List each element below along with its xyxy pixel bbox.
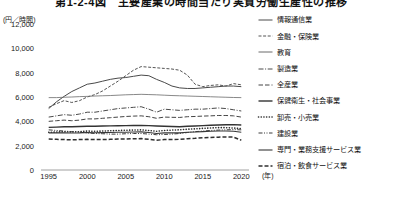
x-axis-tick-2015: 2015 — [194, 172, 211, 181]
legend-item-7[interactable]: 建設業 — [258, 125, 403, 141]
legend-item-6[interactable]: 卸売・小売業 — [258, 109, 403, 125]
series-line-9 — [49, 137, 242, 140]
legend-swatch-icon-6 — [258, 112, 273, 122]
x-axis-tick-2010: 2010 — [156, 172, 173, 181]
y-axis-tick-0: 0 — [0, 166, 34, 175]
series-line-8 — [49, 131, 242, 133]
chart-title: 第1-2-4図 主要産業の時間当たり実質労働生産性の推移 — [0, 0, 403, 9]
y-axis-tick-4000: 4,000 — [0, 117, 34, 126]
chart-container: 第1-2-4図 主要産業の時間当たり実質労働生産性の推移 (円／時間) (年) … — [0, 0, 403, 203]
legend-swatch-icon-8 — [258, 145, 273, 155]
y-axis-tick-2000: 2,000 — [0, 142, 34, 151]
legend-label-5: 保健衛生・社会事業 — [277, 97, 340, 104]
x-axis-tick-2000: 2000 — [79, 172, 96, 181]
y-axis-tick-6000: 6,000 — [0, 93, 34, 102]
series-line-4 — [49, 115, 242, 121]
x-axis-tick-2020: 2020 — [233, 172, 250, 181]
y-axis-tick-12000: 12,000 — [0, 20, 34, 29]
legend-swatch-icon-5 — [258, 96, 273, 106]
legend-swatch-icon-7 — [258, 128, 273, 138]
series-line-5 — [49, 125, 242, 128]
legend-label-2: 教育 — [277, 49, 291, 56]
legend-item-5[interactable]: 保健衛生・社会事業 — [258, 93, 403, 109]
legend-label-3: 製造業 — [277, 65, 298, 72]
series-line-0 — [49, 75, 242, 108]
legend-label-1: 金融・保険業 — [277, 33, 319, 40]
legend-label-8: 専門・業務支援サービス業 — [277, 146, 361, 153]
legend-label-7: 建設業 — [277, 130, 298, 137]
legend-swatch-icon-1 — [258, 31, 273, 41]
y-axis-tick-10000: 10,000 — [0, 44, 34, 53]
legend-swatch-icon-4 — [258, 80, 273, 90]
chart-legend: 情報通信業金融・保険業教育製造業全産業保健衛生・社会事業卸売・小売業建設業専門・… — [258, 12, 403, 174]
legend-label-4: 全産業 — [277, 81, 298, 88]
x-axis-tick-1995: 1995 — [40, 172, 57, 181]
legend-swatch-icon-0 — [258, 15, 273, 25]
legend-swatch-icon-2 — [258, 47, 273, 57]
legend-item-4[interactable]: 全産業 — [258, 77, 403, 93]
legend-swatch-icon-9 — [258, 161, 273, 171]
legend-label-0: 情報通信業 — [277, 16, 312, 23]
legend-swatch-icon-3 — [258, 64, 273, 74]
legend-item-8[interactable]: 専門・業務支援サービス業 — [258, 142, 403, 158]
series-line-2 — [49, 94, 242, 97]
plot-area — [41, 24, 249, 170]
y-axis-tick-8000: 8,000 — [0, 69, 34, 78]
legend-item-1[interactable]: 金融・保険業 — [258, 28, 403, 44]
legend-label-6: 卸売・小売業 — [277, 114, 319, 121]
legend-item-0[interactable]: 情報通信業 — [258, 12, 403, 28]
plot-svg — [41, 24, 249, 170]
x-axis-tick-2005: 2005 — [117, 172, 134, 181]
legend-item-9[interactable]: 宿泊・飲食サービス業 — [258, 158, 403, 174]
legend-label-9: 宿泊・飲食サービス業 — [277, 162, 347, 169]
legend-item-2[interactable]: 教育 — [258, 44, 403, 60]
legend-item-3[interactable]: 製造業 — [258, 61, 403, 77]
